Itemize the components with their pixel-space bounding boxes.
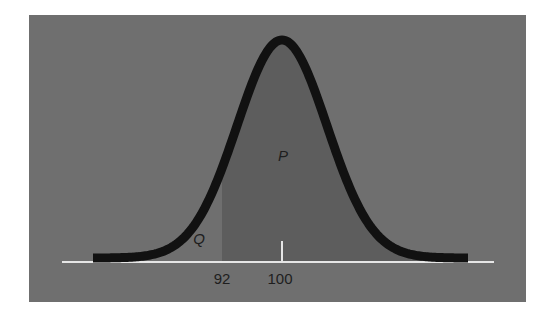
tick-label-92: 92 — [214, 270, 231, 287]
region-label-p: P — [278, 147, 288, 164]
tick-label-100: 100 — [267, 270, 292, 287]
region-label-q: Q — [193, 230, 205, 247]
